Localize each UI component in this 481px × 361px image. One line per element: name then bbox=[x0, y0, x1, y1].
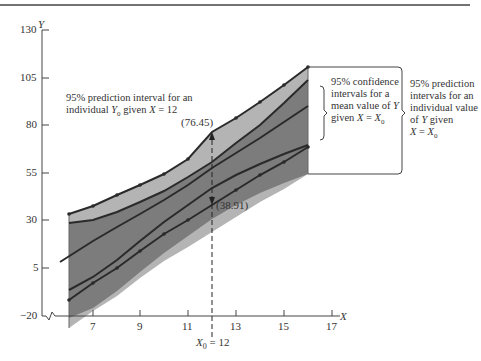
y-tick-neg20: −20 bbox=[20, 309, 37, 321]
x-tick-13: 13 bbox=[230, 320, 241, 332]
y-tick-5: 5 bbox=[33, 261, 39, 273]
y-axis-label: Y bbox=[38, 18, 44, 30]
x0-label: X0 = 12 bbox=[196, 336, 229, 353]
x-tick-11: 11 bbox=[182, 320, 193, 332]
y-tick-55: 55 bbox=[26, 166, 37, 178]
lower-limit-value: (38.91) bbox=[216, 199, 248, 211]
confidence-interval-label: 95% confidence intervals for a mean valu… bbox=[331, 76, 399, 128]
x-tick-17: 17 bbox=[326, 320, 337, 332]
prediction-interval-note: 95% prediction interval for an individua… bbox=[66, 92, 193, 120]
regression-interval-chart bbox=[0, 0, 481, 361]
y-tick-130: 130 bbox=[20, 23, 37, 35]
x-axis-label: X bbox=[340, 310, 347, 322]
x-tick-15: 15 bbox=[278, 320, 289, 332]
y-tick-80: 80 bbox=[26, 118, 37, 130]
x-tick-9: 9 bbox=[137, 320, 143, 332]
x-tick-7: 7 bbox=[90, 320, 96, 332]
confidence-interval-brace bbox=[320, 86, 327, 140]
y-tick-105: 105 bbox=[20, 71, 37, 83]
prediction-intervals-label: 95% prediction intervals for an individu… bbox=[410, 78, 478, 142]
y-ticks bbox=[42, 30, 49, 268]
y-tick-30: 30 bbox=[26, 213, 37, 225]
